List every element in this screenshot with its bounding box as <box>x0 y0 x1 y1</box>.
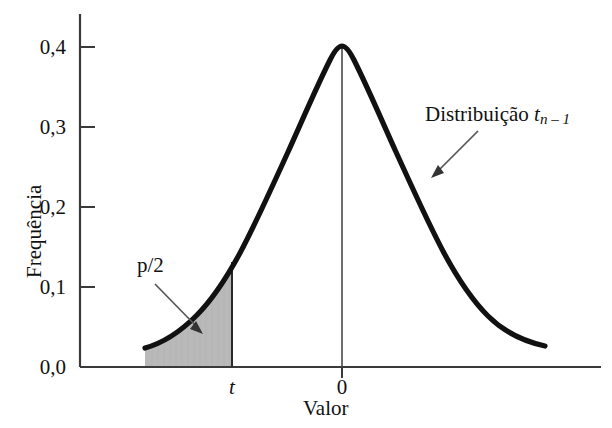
curve-annotation-arrow <box>431 131 478 178</box>
y-tick-label-0-0: 0,0 <box>14 357 66 378</box>
y-axis-title: Frequência <box>24 185 45 278</box>
t-distribution-figure: 0,4 0,3 0,2 0,1 0,0 t 0 Frequência Valor… <box>0 0 612 428</box>
tail-annotation-arrow <box>155 284 203 334</box>
tail-probability-label: p/2 <box>137 255 164 276</box>
distribution-label-subscript: n – 1 <box>540 111 570 127</box>
distribution-label: Distribuição tn – 1 <box>425 104 570 127</box>
y-tick-label-0-1: 0,1 <box>14 277 66 298</box>
distribution-label-text: Distribuição <box>425 102 534 126</box>
y-tick-label-0-3: 0,3 <box>14 117 66 138</box>
y-tick-label-0-4: 0,4 <box>14 37 66 58</box>
x-tick-label-t: t <box>212 377 252 398</box>
x-tick-label-zero: 0 <box>322 377 362 398</box>
density-curve <box>145 46 545 348</box>
y-axis-ticks <box>80 47 95 287</box>
x-axis-title: Valor <box>303 398 349 419</box>
distribution-plot-canvas <box>0 0 612 428</box>
